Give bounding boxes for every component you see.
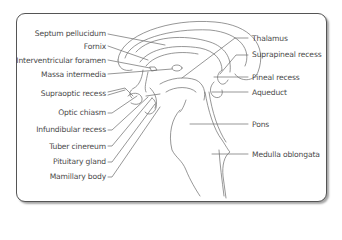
pons-outline xyxy=(170,110,200,196)
label-optic-chiasm: Optic chiasm xyxy=(58,108,106,117)
label-fornix: Fornix xyxy=(84,42,106,51)
label-infundibular-recess: Infundibular recess xyxy=(36,125,106,134)
label-aqueduct: Aqueduct xyxy=(252,88,287,97)
label-septum-pellucidum: Septum pellucidum xyxy=(35,29,106,38)
label-tuber-cinereum: Tuber cinereum xyxy=(49,142,106,151)
fornix-arc xyxy=(140,47,222,70)
label-suprapineal-recess: Suprapineal recess xyxy=(252,50,322,59)
label-interventricular-foramen: Interventricular foramen xyxy=(16,56,106,65)
label-thalamus: Thalamus xyxy=(252,34,288,43)
label-massa-intermedia: Massa intermedia xyxy=(41,70,106,79)
label-medulla-oblongata: Medulla oblongata xyxy=(252,150,320,159)
brainstem-posterior xyxy=(205,92,230,198)
label-mamillary-body: Mamillary body xyxy=(50,172,106,181)
label-pineal-recess: Pineal recess xyxy=(252,73,300,82)
label-pons: Pons xyxy=(252,120,269,129)
label-pituitary-gland: Pituitary gland xyxy=(53,157,106,166)
label-supraoptic-recess: Supraoptic recess xyxy=(41,89,106,98)
massa-intermedia xyxy=(172,65,182,71)
